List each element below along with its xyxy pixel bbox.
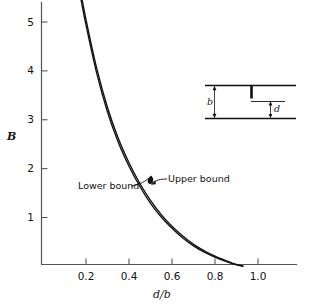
x-tick-label: 0.4 [114,271,144,282]
x-tick-label: 1.0 [243,271,273,282]
y-axis-ticks [42,22,48,218]
upper-bound-annotation: Upper bound [168,174,230,184]
x-tick-label: 0.2 [71,271,101,282]
chart-canvas [0,0,309,306]
lower-bound-curve [81,0,243,266]
y-tick-label: 1 [22,212,34,223]
y-tick-label: 4 [22,65,34,76]
inset-label-b: b [207,97,213,107]
y-tick-label: 5 [22,17,34,28]
y-tick-label: 2 [22,163,34,174]
y-axis-title: B [7,131,16,142]
x-axis-title: d/b [153,289,171,300]
inset-label-d: d [274,104,280,114]
y-tick-label: 3 [22,114,34,125]
upper-bound-curve [81,0,243,266]
x-tick-label: 0.8 [200,271,230,282]
x-tick-label: 0.6 [157,271,187,282]
lower-bound-annotation: Lower bound [78,181,139,191]
inset-diagram [205,86,296,119]
figure: 5 4 3 2 1 0.2 0.4 0.6 0.8 1.0 B d/b Lowe… [0,0,309,306]
